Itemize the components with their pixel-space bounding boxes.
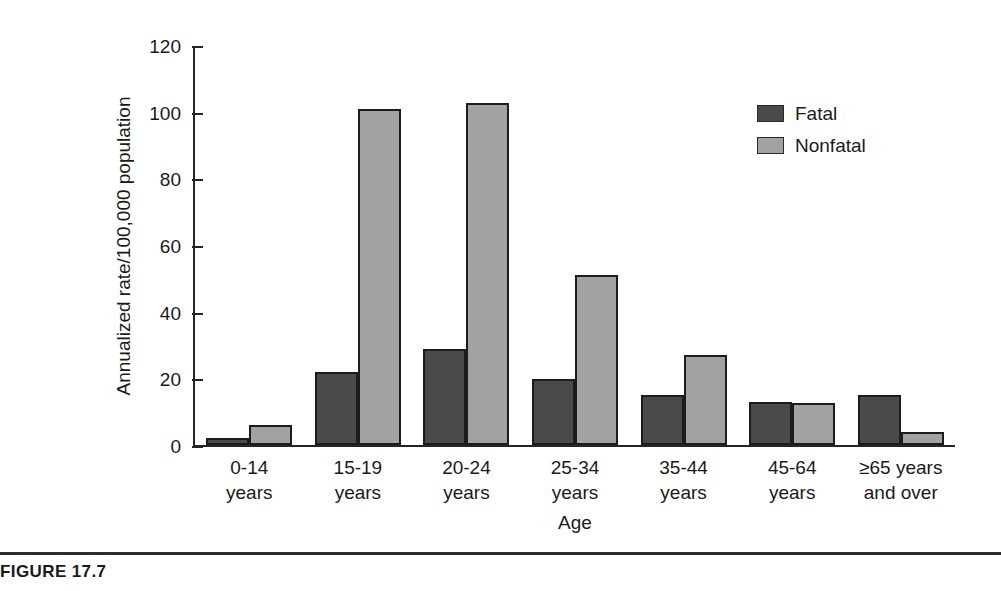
bar-group-0-14 [195, 46, 304, 445]
x-tick-label-25-34: 25-34 years [521, 455, 630, 505]
bar-group-25-34 [521, 46, 630, 445]
chart-legend: Fatal Nonfatal [757, 104, 947, 168]
bar-fatal-35-44 [641, 395, 684, 445]
y-axis-title: Annualized rate/100,000 population [112, 0, 136, 46]
x-tick-label-15-19-line2: years [304, 480, 413, 505]
x-tick-label-25-34-line2: years [521, 480, 630, 505]
bar-group-20-24 [412, 46, 521, 445]
x-tick-label-35-44: 35-44 years [629, 455, 738, 505]
bar-fatal-20-24 [423, 349, 466, 445]
bar-fatal-45-64 [749, 402, 792, 445]
y-tick-label-0: 0 [170, 437, 181, 456]
y-tick-label-20: 20 [160, 370, 181, 389]
x-tick-label-15-19-line1: 15-19 [334, 457, 383, 478]
bar-nonfatal-0-14 [249, 425, 292, 445]
figure-caption: FIGURE 17.7 [0, 562, 106, 582]
x-tick-label-35-44-line1: 35-44 [659, 457, 708, 478]
y-tick-label-120: 120 [149, 37, 181, 56]
y-tick-label-100: 100 [149, 103, 181, 122]
y-axis-title-text: Annualized rate/100,000 population [112, 46, 136, 446]
bar-nonfatal-65-and-over [901, 432, 944, 445]
x-tick-label-0-14: 0-14 years [195, 455, 304, 505]
bar-nonfatal-25-34 [575, 275, 618, 445]
x-tick-label-20-24-line2: years [412, 480, 521, 505]
bar-nonfatal-45-64 [792, 403, 835, 445]
x-axis-line [193, 445, 955, 447]
bar-fatal-0-14 [206, 438, 249, 445]
bar-fatal-65-and-over [858, 395, 901, 445]
bar-fatal-25-34 [532, 379, 575, 446]
bar-nonfatal-35-44 [684, 355, 727, 445]
x-tick-label-65-and-over-line2: and over [846, 480, 955, 505]
y-tick-label-40: 40 [160, 303, 181, 322]
x-tick-label-0-14-line2: years [195, 480, 304, 505]
caption-divider [0, 552, 1001, 555]
x-axis-tick-labels: 0-14 years 15-19 years 20-24 years 25-34… [195, 455, 955, 505]
bar-group-35-44 [629, 46, 738, 445]
x-tick-label-65-and-over-line1: ≥65 years [859, 457, 942, 478]
x-tick-label-20-24-line1: 20-24 [442, 457, 491, 478]
figure-container: 0 20 40 60 80 100 120 [0, 0, 1001, 591]
x-tick-label-65-and-over: ≥65 years and over [846, 455, 955, 505]
y-tick-label-80: 80 [160, 170, 181, 189]
x-tick-label-35-44-line2: years [629, 480, 738, 505]
bar-nonfatal-20-24 [466, 103, 509, 445]
x-tick-label-20-24: 20-24 years [412, 455, 521, 505]
legend-label-nonfatal: Nonfatal [795, 136, 866, 155]
legend-item-fatal: Fatal [757, 104, 947, 123]
nonfatal-swatch-icon [757, 137, 784, 154]
legend-item-nonfatal: Nonfatal [757, 136, 947, 155]
bar-fatal-15-19 [315, 372, 358, 445]
x-tick-label-15-19: 15-19 years [304, 455, 413, 505]
x-tick-label-0-14-line1: 0-14 [230, 457, 268, 478]
fatal-swatch-icon [757, 105, 784, 122]
legend-label-fatal: Fatal [795, 104, 837, 123]
x-tick-label-45-64-line1: 45-64 [768, 457, 817, 478]
y-tick-label-60: 60 [160, 237, 181, 256]
bar-nonfatal-15-19 [358, 109, 401, 445]
x-tick-label-45-64-line2: years [738, 480, 847, 505]
x-tick-label-25-34-line1: 25-34 [551, 457, 600, 478]
x-tick-label-45-64: 45-64 years [738, 455, 847, 505]
x-axis-title: Age [195, 512, 955, 534]
bar-group-15-19 [304, 46, 413, 445]
